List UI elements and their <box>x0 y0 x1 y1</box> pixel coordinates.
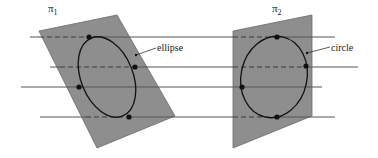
intersection-point <box>76 84 81 89</box>
plane1-label: π1 <box>48 2 58 17</box>
intersection-point <box>303 63 308 68</box>
projection-diagram: π1 π2 ellipse circle <box>0 0 378 158</box>
circle-label: circle <box>331 42 354 53</box>
plane-1 <box>39 15 175 148</box>
leader-dot <box>306 52 308 54</box>
intersection-point <box>126 114 131 119</box>
planes-layer <box>39 15 312 148</box>
intersection-point <box>86 34 91 39</box>
intersection-point <box>274 34 279 39</box>
ellipse-label: ellipse <box>157 42 184 53</box>
intersection-point <box>274 114 279 119</box>
intersection-point <box>239 84 244 89</box>
intersection-point <box>132 64 137 69</box>
plane2-label: π2 <box>272 2 282 17</box>
plane-2 <box>233 15 312 148</box>
leader-line <box>136 48 156 55</box>
leader-dot <box>135 54 137 56</box>
